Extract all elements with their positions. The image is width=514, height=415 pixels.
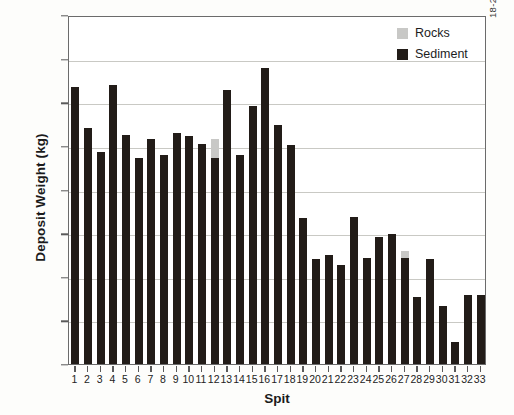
gridline: [69, 104, 485, 105]
y-tick-mark: [61, 59, 68, 60]
x-tick-mark: [353, 366, 354, 372]
bar-segment-sediment: [287, 145, 295, 364]
bar: [198, 144, 206, 364]
bar-segment-sediment: [274, 125, 282, 364]
bar-segment-sediment: [160, 155, 168, 364]
x-tick-mark: [264, 366, 265, 372]
bar: [261, 68, 269, 364]
bar-segment-sediment: [173, 133, 181, 364]
bar-segment-sediment: [350, 217, 358, 364]
bar-segment-sediment: [464, 295, 472, 364]
x-tick-label: 16: [258, 373, 270, 385]
x-tick-label: 7: [147, 373, 153, 385]
bar: [287, 145, 295, 364]
bar-segment-sediment: [312, 259, 320, 364]
bar: [84, 128, 92, 364]
bar: [413, 297, 421, 364]
x-tick-label: 26: [385, 373, 397, 385]
bar-segment-sediment: [375, 237, 383, 364]
chart-figure: Deposit Weight (kg) 20001750150012507507…: [0, 0, 514, 415]
bar: [401, 251, 409, 364]
x-tick-mark: [467, 366, 468, 372]
bar: [451, 342, 459, 364]
bar: [160, 155, 168, 364]
bar-segment-sediment: [337, 265, 345, 364]
y-tick-mark: [61, 103, 68, 104]
y-tick-mark: [61, 233, 68, 234]
x-tick-mark: [214, 366, 215, 372]
x-tick-label: 29: [423, 373, 435, 385]
x-tick-mark: [277, 366, 278, 372]
x-tick-mark: [391, 366, 392, 372]
x-tick-mark: [201, 366, 202, 372]
x-tick-label: 2: [84, 373, 90, 385]
plot-area: [68, 16, 486, 365]
bar-segment-sediment: [122, 135, 130, 364]
x-tick-mark: [429, 366, 430, 372]
x-tick-mark: [100, 366, 101, 372]
x-tick-mark: [480, 366, 481, 372]
x-tick-label: 23: [347, 373, 359, 385]
x-tick-mark: [176, 366, 177, 372]
bar: [375, 237, 383, 364]
x-tick-mark: [226, 366, 227, 372]
bar-segment-sediment: [135, 158, 143, 364]
x-tick-mark: [416, 366, 417, 372]
legend-swatch-rocks: [397, 28, 408, 39]
x-tick-mark: [404, 366, 405, 372]
y-tick-mark: [61, 146, 68, 147]
x-tick-mark: [290, 366, 291, 372]
bar-segment-sediment: [249, 106, 257, 364]
bar: [211, 139, 219, 364]
x-tick-mark: [150, 366, 151, 372]
x-tick-label: 21: [322, 373, 334, 385]
bar-segment-sediment: [185, 136, 193, 364]
bar: [236, 155, 244, 364]
bar-segment-sediment: [426, 259, 434, 364]
bar-segment-sediment: [401, 258, 409, 364]
bar: [147, 139, 155, 364]
bar-segment-sediment: [84, 128, 92, 364]
y-tick-mark: [61, 364, 68, 365]
bar: [173, 133, 181, 364]
bar: [109, 85, 117, 364]
x-tick-mark: [188, 366, 189, 372]
bar-segment-rocks: [211, 139, 219, 158]
x-tick-mark: [112, 366, 113, 372]
figure-side-code: 18-274: [487, 0, 498, 18]
x-tick-mark: [454, 366, 455, 372]
bar-segment-sediment: [236, 155, 244, 364]
x-tick-label: 4: [109, 373, 115, 385]
bar: [439, 306, 447, 364]
x-tick-mark: [87, 366, 88, 372]
bar-segment-sediment: [71, 87, 79, 364]
x-tick-label: 6: [135, 373, 141, 385]
bar: [299, 218, 307, 364]
bar: [249, 106, 257, 364]
bar-segment-sediment: [211, 158, 219, 364]
legend: Rocks Sediment: [397, 26, 468, 61]
x-tick-label: 25: [372, 373, 384, 385]
bar-segment-sediment: [97, 152, 105, 364]
bar: [350, 217, 358, 364]
x-tick-mark: [252, 366, 253, 372]
bar: [223, 90, 231, 364]
x-tick-label: 17: [271, 373, 283, 385]
x-tick-mark: [328, 366, 329, 372]
x-tick-label: 20: [309, 373, 321, 385]
bar-segment-sediment: [198, 144, 206, 364]
bar: [135, 158, 143, 364]
x-tick-mark: [302, 366, 303, 372]
x-tick-mark: [163, 366, 164, 372]
bar-segment-sediment: [299, 218, 307, 364]
x-tick-label: 5: [122, 373, 128, 385]
x-tick-label: 3: [97, 373, 103, 385]
legend-label-sediment: Sediment: [415, 47, 468, 61]
x-tick-mark: [125, 366, 126, 372]
x-tick-label: 1: [71, 373, 77, 385]
legend-label-rocks: Rocks: [415, 26, 450, 40]
x-tick-label: 32: [461, 373, 473, 385]
legend-item-sediment: Sediment: [397, 47, 468, 61]
x-tick-label: 13: [220, 373, 232, 385]
x-tick-mark: [74, 366, 75, 372]
